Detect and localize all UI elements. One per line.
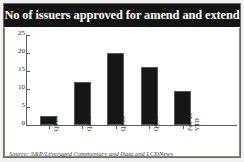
x-tick-mark xyxy=(49,126,50,129)
y-tick-label: 5 xyxy=(22,102,26,109)
x-tick-mark xyxy=(116,126,117,129)
x-tick-label: Q2'09 xyxy=(85,116,92,131)
y-tick-label: 0 xyxy=(22,120,26,127)
plot-area: 0510152025 Q1'09Q2'09Q3'09Q4'09Feb '10 Y… xyxy=(26,35,237,125)
page-title: No of issuers approved for amend and ext… xyxy=(4,9,239,21)
y-tick-label: 15 xyxy=(18,66,25,73)
y-tick-label: 25 xyxy=(18,30,25,37)
x-tick-label: Q3'09 xyxy=(119,116,126,131)
x-tick-mark xyxy=(183,126,184,129)
y-axis-line xyxy=(26,35,27,125)
y-tick-mark xyxy=(27,71,30,72)
y-tick-mark xyxy=(27,107,30,108)
bar xyxy=(107,53,124,125)
x-tick-mark xyxy=(82,126,83,129)
y-tick-mark xyxy=(27,89,30,90)
y-tick-label: 20 xyxy=(18,48,25,55)
x-tick-label: Q4'09 xyxy=(152,116,159,131)
chart-title-banner: No of issuers approved for amend and ext… xyxy=(4,4,240,27)
x-tick-label: Feb '10 YTD xyxy=(186,113,200,131)
y-tick-label: 10 xyxy=(18,84,25,91)
y-tick-mark xyxy=(27,125,30,126)
y-tick-mark xyxy=(27,35,30,36)
x-tick-label: Q1'09 xyxy=(52,116,59,131)
chart-figure: No of issuers approved for amend and ext… xyxy=(0,0,244,162)
plot-frame: 0510152025 Q1'09Q2'09Q3'09Q4'09Feb '10 Y… xyxy=(4,28,240,157)
source-note: Source: S&P/Leveraged Commentary and Dat… xyxy=(9,150,173,157)
x-tick-mark xyxy=(149,126,150,129)
y-tick-mark xyxy=(27,53,30,54)
